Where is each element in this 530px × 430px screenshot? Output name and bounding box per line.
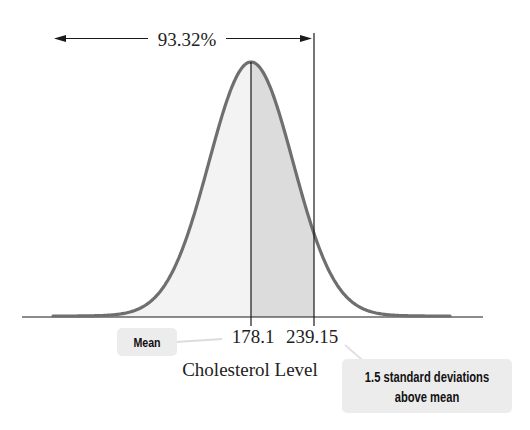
- sd-callout-line1: 1.5 standard deviations: [365, 370, 489, 385]
- mean-tick-label: 178.1: [232, 326, 275, 347]
- x-axis-label: Cholesterol Level: [182, 359, 318, 380]
- sd-callout: 1.5 standard deviations above mean: [342, 345, 512, 413]
- percent-label: 93.32%: [158, 29, 217, 50]
- sd-callout-line2: above mean: [395, 390, 460, 405]
- marked-tick-label: 239.15: [286, 326, 338, 347]
- mean-callout-label: Mean: [133, 335, 160, 350]
- normal-distribution-chart: 93.32% 178.1 239.15 Cholesterol Level Me…: [0, 0, 530, 430]
- mean-callout: Mean: [117, 328, 222, 356]
- arrow-left-icon: [54, 35, 66, 42]
- arrow-right-icon: [300, 35, 312, 42]
